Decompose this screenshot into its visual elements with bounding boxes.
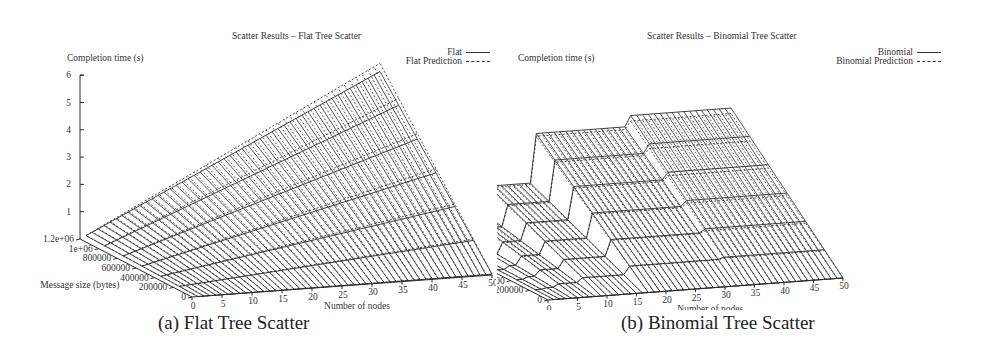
figure-caption: (a) Flat Tree Scatter — [158, 312, 309, 334]
solid-line-swatch-icon — [917, 52, 941, 53]
x-tick-label: 40 — [428, 283, 438, 293]
figure-flat-tree-scatter: 12345602000004000006000008000001e+061.2e… — [0, 0, 496, 356]
x-tick-label: 50 — [488, 278, 496, 288]
legend: Binomial Binomial Prediction — [836, 48, 941, 66]
z-tick-label: 3 — [66, 152, 71, 162]
legend: Flat Flat Prediction — [406, 48, 490, 66]
plot-area: 12345602000004000006000008000001e+061.2e… — [40, 63, 496, 310]
z-tick-label: 6 — [66, 70, 71, 80]
x-tick-label: 0 — [191, 301, 196, 310]
x-tick-label: 0 — [547, 304, 552, 310]
binomial-tree-surface-plot: 12345602000004000006000008000001e+061.2e… — [497, 0, 993, 310]
measured-surface — [86, 71, 492, 296]
legend-label: Binomial Prediction — [836, 57, 913, 66]
x-tick-label: 40 — [780, 286, 790, 296]
dashed-line-swatch-icon — [466, 61, 490, 62]
x-tick-label: 30 — [368, 287, 378, 297]
y-tick-label: 800000 — [83, 253, 112, 263]
y-tick-label: 200000 — [139, 282, 168, 292]
x-tick-label: 50 — [839, 281, 849, 291]
z-tick-label: 2 — [66, 179, 71, 189]
x-tick-label: 15 — [633, 297, 643, 307]
x-tick-label: 20 — [662, 295, 672, 305]
x-tick-label: 25 — [692, 293, 702, 303]
x-tick-label: 10 — [248, 296, 258, 306]
chart-title: Scatter Results – Flat Tree Scatter — [232, 31, 361, 41]
prediction-surface — [86, 63, 492, 296]
figure-binomial-tree-scatter: 12345602000004000006000008000001e+061.2e… — [497, 0, 993, 356]
x-tick-label: 20 — [308, 292, 318, 302]
figure-caption: (b) Binomial Tree Scatter — [621, 312, 815, 334]
solid-line-swatch-icon — [466, 52, 490, 53]
x-tick-label: 45 — [458, 280, 468, 290]
x-tick-label: 35 — [751, 288, 761, 298]
dashed-line-swatch-icon — [917, 61, 941, 62]
x-tick-label: 30 — [721, 290, 731, 300]
x-tick-label: 5 — [576, 302, 581, 310]
x-axis-label: Number of nodes — [324, 301, 390, 310]
y-tick-label: 200000 — [497, 285, 524, 295]
y-tick-label: 1.2e+06 — [43, 234, 74, 244]
x-tick-label: 45 — [810, 283, 820, 293]
y-tick-label: 0 — [181, 292, 186, 302]
flat-tree-surface-plot: 12345602000004000006000008000001e+061.2e… — [0, 0, 496, 310]
x-tick-label: 15 — [278, 294, 288, 304]
x-axis-label: Number of nodes — [677, 304, 743, 310]
z-tick-label: 5 — [66, 98, 71, 108]
y-tick-label: 600000 — [102, 263, 131, 273]
z-axis-label: Completion time (s) — [518, 53, 595, 63]
measured-surface — [497, 108, 843, 299]
x-tick-label: 35 — [398, 285, 408, 295]
x-tick-label: 10 — [603, 299, 613, 309]
y-tick-label: 1e+06 — [69, 244, 93, 254]
z-tick-label: 1 — [66, 207, 71, 217]
y-axis-label: Message size (bytes) — [40, 280, 119, 291]
plot-area: 12345602000004000006000008000001e+061.2e… — [497, 73, 849, 310]
x-tick-label: 5 — [221, 299, 226, 309]
legend-item-binomial-prediction: Binomial Prediction — [836, 57, 941, 66]
chart-title: Scatter Results – Binomial Tree Scatter — [647, 31, 797, 41]
legend-item-flat-prediction: Flat Prediction — [406, 57, 490, 66]
y-tick-label: 400000 — [120, 273, 149, 283]
y-tick-label: 400000 — [497, 276, 505, 286]
z-tick-label: 4 — [66, 125, 71, 135]
z-axis-label: Completion time (s) — [67, 53, 144, 63]
x-tick-label: 25 — [338, 290, 348, 300]
y-tick-label: 0 — [537, 295, 542, 305]
legend-label: Flat Prediction — [406, 57, 462, 66]
